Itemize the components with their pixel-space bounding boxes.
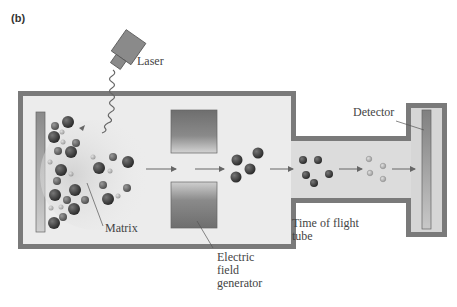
detector-plate [422,110,431,229]
matrix-label: Matrix [105,222,138,235]
time-of-flight-label-2: tube [292,230,313,243]
electric-field-plate-top [171,110,217,153]
electric-field-plate-bottom [171,182,217,228]
detector-label: Detector [353,106,394,119]
electric-field-label-3: generator [217,277,262,290]
laser-label: Laser [137,55,164,68]
